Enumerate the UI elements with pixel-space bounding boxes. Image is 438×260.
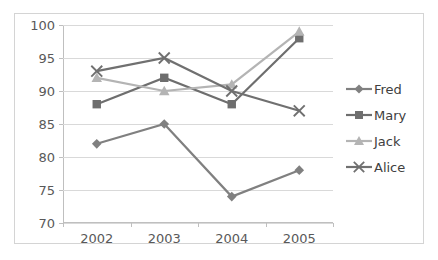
series-line bbox=[97, 38, 300, 104]
legend-item-mary[interactable]: Mary bbox=[345, 102, 423, 128]
chart-legend: FredMaryJackAlice bbox=[345, 76, 423, 180]
x-axis-tick bbox=[63, 223, 64, 227]
x-axis-tick bbox=[131, 223, 132, 227]
x-axis-tick bbox=[333, 223, 334, 227]
series-fred bbox=[92, 119, 304, 201]
series-mary bbox=[93, 34, 304, 108]
legend-marker-icon bbox=[345, 107, 373, 123]
data-point bbox=[228, 100, 236, 108]
plot-area: 707580859095100 2002200320042005 bbox=[63, 25, 333, 223]
legend-item-label: Fred bbox=[374, 82, 402, 97]
x-axis-tick bbox=[198, 223, 199, 227]
data-point bbox=[93, 100, 101, 108]
y-axis-tick-label: 75 bbox=[38, 183, 55, 198]
data-point bbox=[294, 165, 304, 175]
legend-marker-icon bbox=[345, 133, 373, 149]
x-axis-tick-label: 2002 bbox=[80, 231, 113, 246]
data-point bbox=[160, 74, 168, 82]
legend-item-jack[interactable]: Jack bbox=[345, 128, 423, 154]
y-axis-tick-label: 90 bbox=[38, 84, 55, 99]
series-line bbox=[97, 32, 300, 91]
legend-marker-icon bbox=[345, 159, 373, 175]
legend-item-label: Alice bbox=[374, 160, 405, 175]
series-alice bbox=[91, 53, 304, 117]
series-jack bbox=[92, 26, 305, 95]
legend-marker-icon bbox=[345, 81, 373, 97]
y-axis-tick-label: 85 bbox=[38, 117, 55, 132]
y-axis-tick-label: 100 bbox=[30, 18, 55, 33]
legend-item-label: Mary bbox=[374, 108, 406, 123]
y-axis-tick-label: 70 bbox=[38, 216, 55, 231]
x-axis-tick bbox=[266, 223, 267, 227]
y-axis-tick-label: 95 bbox=[38, 51, 55, 66]
x-axis-tick-label: 2005 bbox=[283, 231, 316, 246]
y-axis-tick-label: 80 bbox=[38, 150, 55, 165]
data-point bbox=[294, 26, 305, 35]
legend-item-label: Jack bbox=[374, 134, 400, 149]
chart-frame: 707580859095100 2002200320042005 FredMar… bbox=[14, 13, 424, 244]
series-line bbox=[97, 124, 300, 197]
legend-item-fred[interactable]: Fred bbox=[345, 76, 423, 102]
series-plot bbox=[63, 25, 333, 223]
legend-item-alice[interactable]: Alice bbox=[345, 154, 423, 180]
x-axis-tick-label: 2003 bbox=[148, 231, 181, 246]
x-axis-tick-label: 2004 bbox=[215, 231, 248, 246]
data-point bbox=[92, 139, 102, 149]
